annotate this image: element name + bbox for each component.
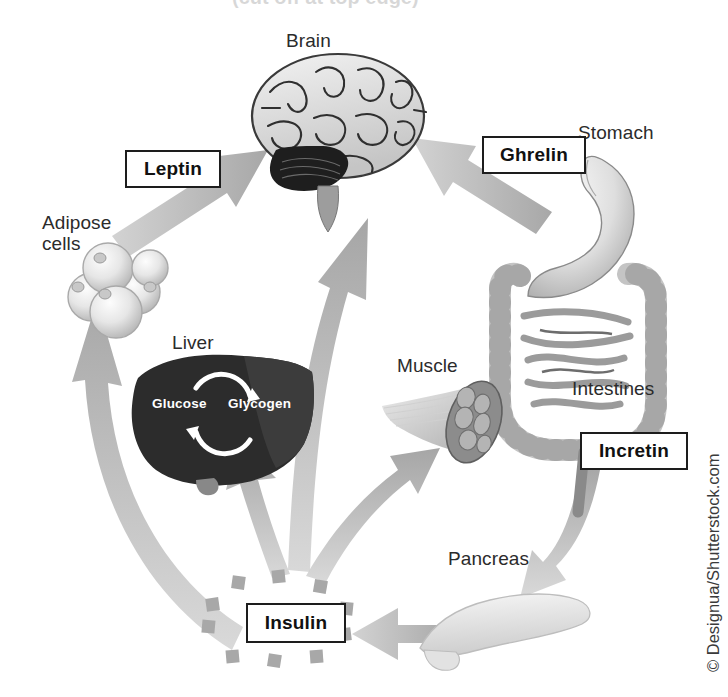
brain-illustration	[252, 54, 426, 232]
label-liver: Liver	[172, 332, 214, 353]
hormone-box-leptin[interactable]: Leptin	[125, 150, 221, 188]
illustration-layer	[0, 0, 728, 697]
arrow-incretin-to-pancreas	[520, 470, 600, 598]
label-pancreas: Pancreas	[448, 548, 529, 569]
liver-illustration	[132, 355, 314, 495]
label-glycogen: Glycogen	[228, 396, 291, 411]
hormone-box-incretin[interactable]: Incretin	[580, 432, 688, 470]
image-credit: © Designua/Shutterstock.com	[704, 453, 723, 672]
label-brain: Brain	[286, 30, 331, 51]
label-glucose: Glucose	[152, 396, 207, 411]
label-muscle: Muscle	[397, 355, 458, 376]
adipose-cells-illustration	[68, 243, 168, 338]
arrow-insulin-to-muscle	[306, 448, 440, 582]
label-intestines: Intestines	[572, 378, 654, 399]
label-stomach: Stomach	[578, 122, 654, 143]
label-adipose-cells: Adipose cells	[42, 212, 111, 255]
hormone-box-ghrelin[interactable]: Ghrelin	[482, 136, 586, 174]
pancreas-illustration	[420, 594, 590, 670]
hormone-box-insulin[interactable]: Insulin	[246, 603, 346, 643]
diagram-canvas: (cut off at top edge)	[0, 0, 728, 697]
